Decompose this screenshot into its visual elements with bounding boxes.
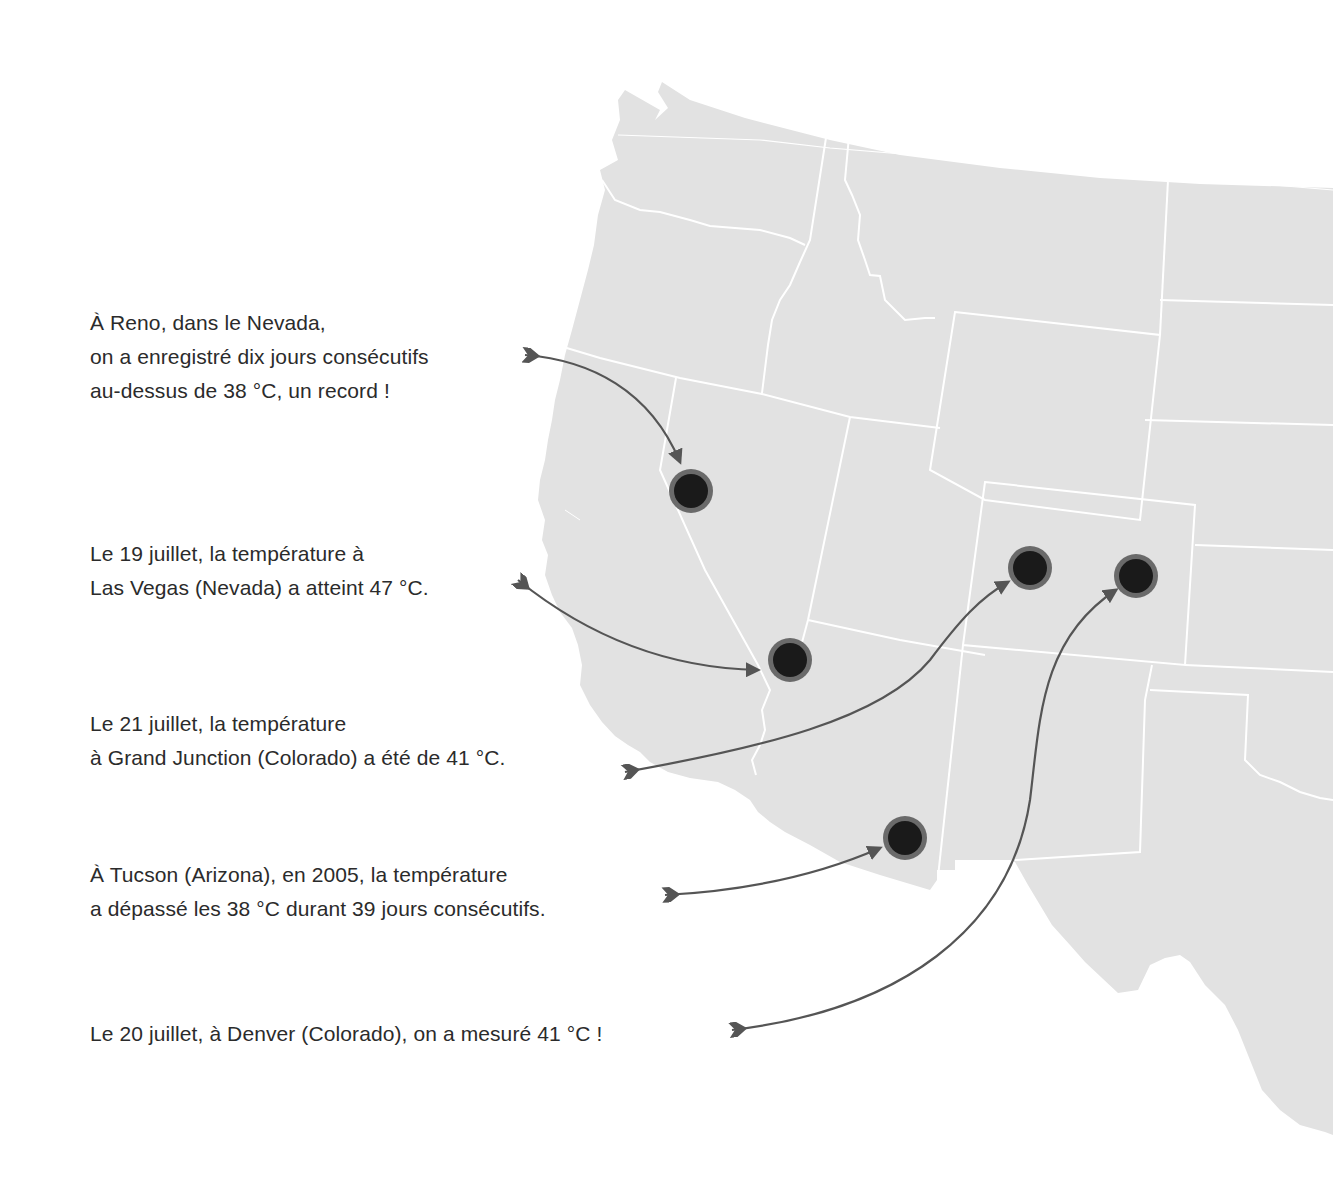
annotation-line: À Reno, dans le Nevada, — [90, 306, 429, 340]
annotation-line: Le 19 juillet, la température à — [90, 537, 429, 571]
annotation-las-vegas: Le 19 juillet, la température à Las Vega… — [90, 537, 429, 605]
annotation-line: au-dessus de 38 °C, un record ! — [90, 374, 429, 408]
annotation-denver: Le 20 juillet, à Denver (Colorado), on a… — [90, 1017, 602, 1051]
annotation-grand-junction: Le 21 juillet, la température à Grand Ju… — [90, 707, 505, 775]
annotation-line: Las Vegas (Nevada) a atteint 47 °C. — [90, 571, 429, 605]
annotation-line: À Tucson (Arizona), en 2005, la températ… — [90, 858, 546, 892]
annotation-line: on a enregistré dix jours consécutifs — [90, 340, 429, 374]
marker-tucson[interactable] — [883, 816, 927, 860]
marker-denver[interactable] — [1114, 554, 1158, 598]
annotation-line: Le 20 juillet, à Denver (Colorado), on a… — [90, 1017, 602, 1051]
land-mass — [538, 82, 1333, 1135]
marker-grand-junction[interactable] — [1008, 546, 1052, 590]
marker-las-vegas[interactable] — [768, 638, 812, 682]
annotation-line: a dépassé les 38 °C durant 39 jours cons… — [90, 892, 546, 926]
marker-reno[interactable] — [669, 469, 713, 513]
annotation-line: à Grand Junction (Colorado) a été de 41 … — [90, 741, 505, 775]
annotation-line: Le 21 juillet, la température — [90, 707, 505, 741]
annotation-tucson: À Tucson (Arizona), en 2005, la températ… — [90, 858, 546, 926]
annotation-reno: À Reno, dans le Nevada, on a enregistré … — [90, 306, 429, 408]
